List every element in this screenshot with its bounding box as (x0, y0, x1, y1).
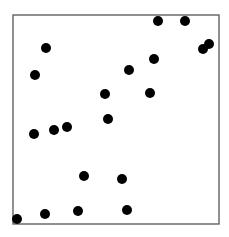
data-point (180, 16, 190, 26)
data-point (29, 129, 39, 139)
data-point (12, 214, 22, 224)
data-point (117, 174, 127, 184)
data-point (100, 89, 110, 99)
data-point (41, 43, 51, 53)
data-point (49, 125, 59, 135)
data-point (153, 16, 163, 26)
data-point (30, 70, 40, 80)
data-point (79, 171, 89, 181)
data-point (124, 65, 134, 75)
data-point (204, 39, 214, 49)
data-point (103, 114, 113, 124)
data-points (12, 16, 214, 224)
scatter-plot (0, 0, 229, 237)
data-point (145, 88, 155, 98)
data-point (40, 209, 50, 219)
data-point (149, 54, 159, 64)
data-point (122, 205, 132, 215)
data-point (62, 122, 72, 132)
data-point (73, 206, 83, 216)
